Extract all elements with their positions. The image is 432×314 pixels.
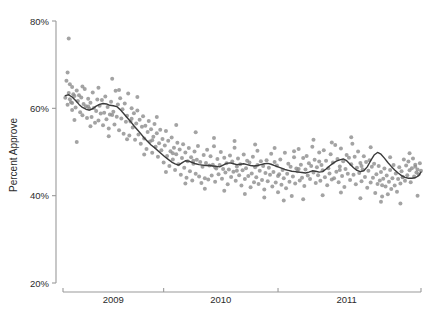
data-point [416,194,420,198]
data-point [172,146,176,150]
data-point [158,128,162,132]
data-point [109,100,113,104]
x-axis-tick-label: 2010 [210,294,231,305]
data-point [94,109,98,113]
data-point [219,150,223,154]
data-point [223,171,227,175]
data-point [205,148,209,152]
data-point [308,177,312,181]
data-point [364,160,368,164]
data-point [212,144,216,148]
data-point [174,152,178,156]
data-point [132,111,136,115]
data-point [356,150,360,154]
data-point [142,153,146,157]
data-point [405,173,409,177]
data-point [265,158,269,162]
data-point [358,196,362,200]
data-point [411,157,415,161]
data-point [338,168,342,172]
data-point [311,138,315,142]
y-axis: 80%60%40%20% [30,16,56,289]
data-point [274,181,278,185]
data-point [231,170,235,174]
data-point [243,177,247,181]
data-point [118,96,122,100]
data-point [252,180,256,184]
data-point [221,167,225,171]
data-point [135,95,139,99]
data-point [323,175,327,179]
data-point [301,197,305,201]
data-point [285,172,289,176]
data-point [193,150,197,154]
data-point [342,185,346,189]
data-point [302,184,306,188]
data-point [171,151,175,155]
data-point [347,156,351,160]
data-point [318,179,322,183]
data-point [339,191,343,195]
data-point [198,160,202,164]
data-point [413,165,417,169]
data-point [233,146,237,150]
data-point [70,108,74,112]
trend-line [65,95,421,178]
y-axis-tick-label: 80% [30,16,50,27]
data-point [269,152,273,156]
data-point [243,192,247,196]
data-point [406,160,410,164]
data-point [276,174,280,178]
data-point [333,143,337,147]
data-point [282,198,286,202]
data-point [215,157,219,161]
data-point [68,82,72,86]
data-point [321,193,325,197]
data-point [93,121,97,125]
data-point [175,141,179,145]
data-point [291,174,295,178]
data-point [324,159,328,163]
data-point [179,173,183,177]
data-point [119,116,123,120]
data-point [239,184,243,188]
data-point [99,112,103,116]
data-point [196,144,200,148]
data-point [156,155,160,159]
data-point [80,85,84,89]
data-point [369,145,373,149]
data-point [325,183,329,187]
data-point [85,116,89,120]
data-point [228,153,232,157]
data-point [210,174,214,178]
data-point [393,184,397,188]
data-point [362,154,366,158]
data-point [66,103,70,107]
data-point [258,169,262,173]
data-point [147,119,151,123]
data-point [352,173,356,177]
data-point [366,169,370,173]
data-point [86,105,90,109]
data-point [378,178,382,182]
data-point [122,132,126,136]
data-point [115,115,119,119]
data-point [155,131,159,135]
data-point [396,177,400,181]
data-point [164,170,168,174]
data-point [247,160,251,164]
data-point [250,171,254,175]
data-point [155,115,159,119]
data-point [350,142,354,146]
data-point [334,170,338,174]
data-point [178,147,182,151]
data-point [384,185,388,189]
data-point [86,97,90,101]
data-point [222,189,226,193]
data-point [234,179,238,183]
data-point [337,180,341,184]
data-point [180,156,184,160]
data-point [63,96,67,100]
data-point [133,138,137,142]
data-point [66,71,70,75]
